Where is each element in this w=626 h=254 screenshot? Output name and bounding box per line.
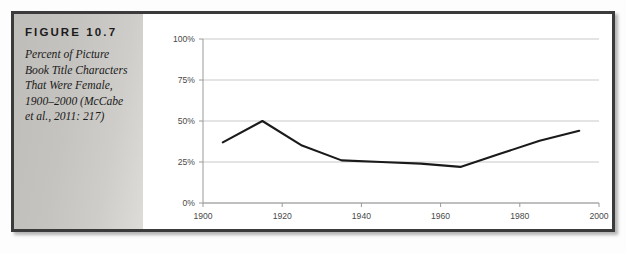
- y-tick-label: 50%: [178, 116, 196, 126]
- figure-container: FIGURE 10.7 Percent of Picture Book Titl…: [0, 0, 626, 254]
- x-tick-label: 1980: [510, 211, 529, 221]
- data-line: [223, 121, 579, 167]
- figure-number-label: FIGURE 10.7: [25, 26, 134, 38]
- y-tick-labels: 0%25%50%75%100%: [173, 34, 203, 208]
- x-tick-labels: 190019201940196019802000: [193, 203, 608, 221]
- x-tick-label: 1920: [273, 211, 292, 221]
- x-tick-label: 1960: [431, 211, 450, 221]
- x-tick-label: 1940: [352, 211, 371, 221]
- caption-panel: FIGURE 10.7 Percent of Picture Book Titl…: [14, 14, 143, 229]
- x-tick-label: 1900: [193, 211, 212, 221]
- line-chart: 0%25%50%75%100% 190019201940196019802000: [143, 14, 612, 229]
- figure-caption-text: Percent of Picture Book Title Characters…: [25, 47, 134, 125]
- chart-region: 0%25%50%75%100% 190019201940196019802000: [143, 14, 612, 229]
- x-tick-label: 2000: [589, 211, 608, 221]
- y-tick-label: 100%: [173, 34, 195, 44]
- y-tick-label: 25%: [178, 157, 196, 167]
- y-tick-label: 0%: [183, 198, 196, 208]
- y-tick-label: 75%: [178, 75, 196, 85]
- figure-frame: FIGURE 10.7 Percent of Picture Book Titl…: [11, 11, 615, 232]
- data-series-group: [223, 121, 579, 167]
